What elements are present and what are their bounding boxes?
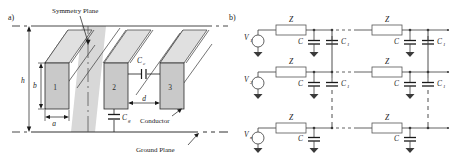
dim-d-label: d: [142, 94, 146, 103]
bus-right-node-2: [427, 71, 430, 74]
impedance-n-2[interactable]: [372, 123, 402, 133]
ground-plane-leader: [188, 135, 197, 145]
block-2-label: 2: [112, 83, 116, 92]
coupling-cap-subscript: c: [143, 61, 146, 66]
source-n-ground: [254, 148, 263, 153]
panel-a-tag: a): [8, 13, 15, 22]
impedance-2-2[interactable]: [372, 67, 402, 77]
panel-b-tag: b): [229, 13, 236, 22]
bus-left-node-1: [331, 29, 334, 32]
row-2-c2-label: C: [394, 79, 400, 88]
ground-plane-label: Ground Plane: [136, 146, 175, 154]
impedance-2-1[interactable]: [276, 67, 306, 77]
network-row-n: V n Z Z C: [244, 113, 449, 153]
source-1-subscript: 1: [250, 38, 253, 43]
dim-d-arrow-left: [128, 101, 133, 105]
dim-h-arrow-top: [27, 26, 31, 32]
panel-b: b) V 1 Z Z: [229, 13, 449, 153]
row-1-c2-ground: [406, 52, 415, 57]
impedance-1-1-label: Z: [289, 15, 294, 24]
block-3-top: [160, 30, 207, 63]
row-n-c2-label: C: [394, 134, 400, 143]
source-2-symbol: [252, 77, 264, 89]
row-n-c-ground: [310, 148, 319, 153]
row-2-terminal: [447, 71, 449, 73]
row-1-c1b-subscript: 1: [443, 42, 446, 47]
block-1-label: 1: [53, 83, 57, 92]
dim-h-arrow-bottom: [27, 127, 31, 133]
row-n-c2-ground: [406, 148, 415, 153]
symmetry-plane-label: Symmetry Plane: [52, 7, 98, 15]
dim-d-arrow-right: [155, 101, 160, 105]
row-1-c-label: C: [298, 37, 304, 46]
network-row-1: V 1 Z Z C: [244, 15, 449, 57]
impedance-1-2[interactable]: [372, 25, 402, 35]
impedance-n-1[interactable]: [276, 123, 306, 133]
row-2-c1-subscript: 1: [347, 84, 350, 89]
ground-cap-subscript: g: [128, 118, 131, 123]
figure-root: a): [0, 0, 457, 158]
impedance-n-1-label: Z: [289, 113, 294, 122]
row-n-c-label: C: [298, 134, 304, 143]
figure-canvas: a): [0, 0, 457, 158]
source-n-symbol: [252, 132, 264, 144]
source-1-ground: [254, 52, 263, 57]
conductor-block-2: [104, 63, 128, 109]
panel-a: a): [8, 7, 228, 154]
dim-b-label: b: [33, 81, 37, 90]
dim-a-arrow-right: [64, 115, 69, 119]
block-3-label: 3: [168, 83, 172, 92]
impedance-1-2-label: Z: [385, 15, 390, 24]
dim-h-label: h: [21, 76, 25, 85]
impedance-1-1[interactable]: [276, 25, 306, 35]
row-1-terminal: [447, 29, 449, 31]
source-1-symbol: [252, 35, 264, 47]
row-1-c1-subscript: 1: [347, 42, 350, 47]
impedance-n-2-label: Z: [385, 113, 390, 122]
dim-a-label: a: [52, 119, 56, 128]
conductor-block-1: [45, 63, 69, 109]
bus-right-node-1: [427, 29, 430, 32]
row-2-c-label: C: [298, 79, 304, 88]
impedance-2-1-label: Z: [289, 57, 294, 66]
network-row-2: V 2 Z Z C: [244, 57, 449, 99]
row-1-c2-label: C: [394, 37, 400, 46]
ground-plane-arrowhead: [194, 133, 199, 138]
source-2-ground: [254, 94, 263, 99]
conductor-label: Conductor: [140, 117, 170, 125]
bus-left-node-2: [331, 71, 334, 74]
row-1-c-ground: [310, 52, 319, 57]
row-2-c-ground: [310, 94, 319, 99]
dim-a-arrow-left: [45, 115, 50, 119]
row-n-terminal: [447, 127, 449, 129]
block-2-top: [104, 30, 151, 63]
row-2-c1b-subscript: 1: [443, 84, 446, 89]
dim-b-arrow-top: [39, 63, 43, 68]
impedance-2-2-label: Z: [385, 57, 390, 66]
row-2-c2-ground: [406, 94, 415, 99]
conductor-block-3: [160, 63, 184, 109]
dim-b-arrow-bottom: [39, 104, 43, 109]
